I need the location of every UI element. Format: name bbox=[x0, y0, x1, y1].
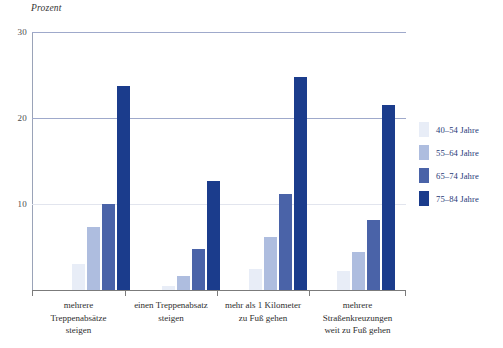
bar-group bbox=[162, 32, 220, 290]
y-axis-line bbox=[32, 32, 33, 291]
category-label-line: Treppenabsätze bbox=[32, 312, 125, 325]
bar bbox=[72, 264, 85, 290]
category-label-line: weit zu Fuß gehen bbox=[309, 324, 406, 337]
y-tick-label-30: 30 bbox=[17, 27, 27, 37]
legend-swatch bbox=[419, 168, 429, 183]
legend-label: 65–74 Jahre bbox=[436, 171, 479, 181]
category-label-line: steigen bbox=[32, 324, 125, 337]
bar bbox=[87, 227, 100, 290]
category-label: mehrereStraßenkreuzungenweit zu Fuß gehe… bbox=[309, 299, 406, 337]
bar bbox=[279, 194, 292, 290]
category-label: mehr als 1 Kilometerzu Fuß gehen bbox=[217, 299, 309, 324]
bar-group bbox=[249, 32, 307, 290]
category-label-line: mehrere bbox=[32, 299, 125, 312]
x-axis-tick bbox=[309, 290, 310, 296]
y-axis-title: Prozent bbox=[31, 3, 62, 13]
x-axis-tick bbox=[405, 290, 406, 296]
chart-legend: 40–54 Jahre55–64 Jahre65–74 Jahre75–84 J… bbox=[419, 118, 503, 210]
legend-label: 40–54 Jahre bbox=[436, 125, 479, 135]
category-label-line: einen Treppenabsatz bbox=[125, 299, 217, 312]
bar bbox=[382, 105, 395, 290]
bar bbox=[192, 249, 205, 290]
bar-group bbox=[337, 32, 395, 290]
plot-area: 102030 bbox=[32, 32, 406, 291]
x-axis-tick bbox=[125, 290, 126, 296]
y-tick-label-10: 10 bbox=[17, 199, 27, 209]
legend-item[interactable]: 65–74 Jahre bbox=[419, 164, 503, 187]
category-label-line: Straßenkreuzungen bbox=[309, 312, 406, 325]
bar bbox=[177, 276, 190, 290]
bar bbox=[207, 181, 220, 290]
legend-label: 55–64 Jahre bbox=[436, 148, 479, 158]
bar bbox=[352, 252, 365, 290]
legend-item[interactable]: 75–84 Jahre bbox=[419, 187, 503, 210]
bar-group bbox=[72, 32, 130, 290]
category-label-line: zu Fuß gehen bbox=[217, 312, 309, 325]
bar bbox=[249, 269, 262, 290]
category-label-line: mehrere bbox=[309, 299, 406, 312]
category-label-line: steigen bbox=[125, 312, 217, 325]
y-tick-label-20: 20 bbox=[17, 113, 27, 123]
bar bbox=[337, 271, 350, 290]
category-label: einen Treppenabsatzsteigen bbox=[125, 299, 217, 324]
bar bbox=[294, 77, 307, 290]
legend-swatch bbox=[419, 145, 429, 160]
x-axis-line bbox=[32, 290, 406, 291]
bar bbox=[367, 220, 380, 290]
legend-label: 75–84 Jahre bbox=[436, 194, 479, 204]
legend-item[interactable]: 55–64 Jahre bbox=[419, 141, 503, 164]
bar bbox=[162, 286, 175, 290]
legend-swatch bbox=[419, 191, 429, 206]
x-axis-tick bbox=[217, 290, 218, 296]
legend-item[interactable]: 40–54 Jahre bbox=[419, 118, 503, 141]
bar bbox=[102, 204, 115, 290]
category-label: mehrereTreppenabsätzesteigen bbox=[32, 299, 125, 337]
bar bbox=[117, 86, 130, 290]
bar-chart: Prozent 102030 mehrereTreppenabsätzestei… bbox=[0, 0, 503, 348]
legend-swatch bbox=[419, 122, 429, 137]
x-axis-tick bbox=[32, 290, 33, 296]
category-label-line: mehr als 1 Kilometer bbox=[217, 299, 309, 312]
bar bbox=[264, 237, 277, 290]
